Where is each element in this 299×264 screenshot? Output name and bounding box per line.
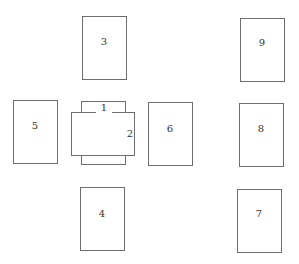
- card-1-label: 1: [101, 103, 107, 113]
- card-6: [148, 102, 193, 166]
- card-8-label: 8: [258, 124, 264, 134]
- card-6-label: 6: [167, 124, 173, 134]
- card-7: [237, 189, 282, 253]
- card-2-label: 2: [127, 129, 133, 139]
- card-4: [80, 187, 125, 251]
- card-4-label: 4: [99, 209, 105, 219]
- card-8: [239, 103, 284, 167]
- card-5: [13, 100, 58, 164]
- card-9: [240, 18, 285, 82]
- card-5-label: 5: [32, 121, 38, 131]
- card-3-label: 3: [101, 37, 107, 47]
- card-2: [71, 112, 135, 156]
- card-9-label: 9: [259, 38, 265, 48]
- card-7-label: 7: [256, 209, 262, 219]
- card-3: [82, 16, 127, 80]
- card-layout-diagram: 1 2 3 4 5 6 7 8 9: [0, 0, 299, 264]
